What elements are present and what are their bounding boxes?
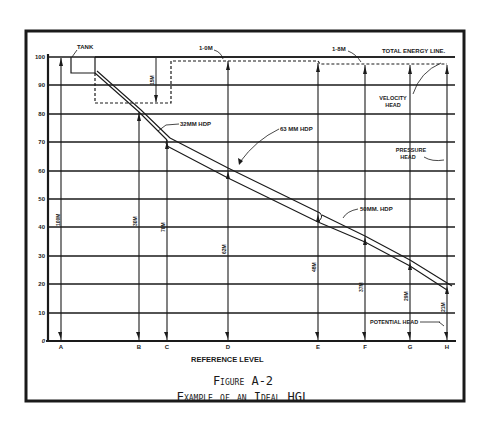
leader-line — [72, 50, 77, 57]
figure-frame — [26, 31, 464, 401]
station-label-f: F — [363, 344, 367, 350]
figure-title: Example of an Ideal HGL — [177, 390, 309, 404]
station-labels: A B C D E F G H — [59, 344, 449, 350]
leader-line — [424, 157, 444, 161]
head-label-g: 29M — [403, 291, 409, 301]
pipe-63mm-label: 63 MM HDP — [280, 126, 313, 132]
energy-loss-label-2: 1·8M — [332, 46, 346, 52]
arrowhead — [154, 95, 158, 102]
energy-loss-label-1: 1·0M — [199, 45, 213, 51]
velocity-head-label: HEAD — [385, 102, 401, 108]
pipe-32mm-label: 32MM HDP — [180, 121, 211, 127]
head-label-c: 70M — [160, 222, 166, 232]
head-label-f: 37M — [358, 282, 364, 292]
tank-loss-label: 15M — [149, 75, 155, 85]
y-tick-label: 80 — [38, 111, 45, 117]
station-head-labels: 100M 30M 70M 62M 48M 37M 29M 21M — [55, 213, 446, 312]
station-label-a: A — [59, 344, 64, 350]
station-label-c: C — [165, 344, 170, 350]
y-tick-label: 10 — [38, 310, 45, 316]
pressure-head-label: PRESSURE — [396, 147, 427, 153]
head-label-e: 48M — [311, 262, 317, 272]
y-tick-label: 40 — [38, 224, 45, 230]
y-tick-labels: 100 90 80 70 60 50 40 30 20 10 0 — [35, 54, 46, 344]
station-label-b: B — [137, 344, 142, 350]
station-label-d: D — [226, 344, 231, 350]
tank-label: TANK — [77, 44, 94, 50]
y-tick-label: 50 — [38, 196, 45, 202]
y-tick-label: 30 — [38, 253, 45, 259]
leader-line — [413, 63, 441, 94]
potential-head-label: POTENTIAL HEAD — [370, 319, 418, 325]
leader-line — [240, 129, 279, 162]
head-label-h: 21M — [440, 302, 446, 312]
head-label-d: 62M — [221, 244, 227, 254]
y-tick-label: 90 — [38, 82, 45, 88]
y-tick-label: 60 — [38, 168, 45, 174]
figure-number: Figure A-2 — [213, 374, 273, 388]
station-label-h: H — [445, 344, 449, 350]
station-label-e: E — [316, 344, 320, 350]
y-tick-label: 100 — [35, 54, 46, 60]
y-tick-label: 0 — [42, 338, 46, 344]
leader-line — [343, 209, 358, 218]
x-axis-label: REFERENCE LEVEL — [191, 355, 264, 364]
leader-line — [214, 50, 223, 59]
leader-line — [439, 322, 444, 326]
head-label-b: 30M — [132, 216, 138, 226]
pressure-head-label: HEAD — [400, 154, 416, 160]
y-tick-label: 20 — [38, 281, 45, 287]
hgl-diagram: 100 90 80 70 60 50 40 30 20 10 0 — [0, 0, 486, 448]
head-label-a: 100M — [55, 213, 61, 226]
base-arrowheads — [58, 332, 448, 339]
station-label-g: G — [408, 344, 413, 350]
pipe-50mm-label: 50MM. HDP — [360, 206, 393, 212]
y-tick-label: 70 — [38, 139, 45, 145]
tank-outline — [71, 57, 95, 73]
total-energy-line-label: TOTAL ENERGY LINE. — [382, 48, 446, 54]
velocity-head-label: VELOCITY — [379, 95, 407, 101]
